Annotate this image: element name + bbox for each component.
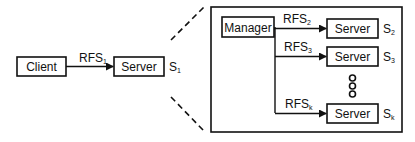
ellipsis-circles-icon (350, 75, 356, 97)
server-node-s2: Server S2 (327, 19, 395, 38)
client-node: Client (17, 57, 66, 76)
server-node-sk: Server Sk (327, 104, 395, 123)
manager-label: Manager (224, 21, 271, 35)
link-s2-label: RFS2 (283, 12, 311, 26)
diagram-canvas: Client RFS1 Server S1 Manager RFS2 RFS3 … (0, 0, 415, 142)
server-s3-id: S3 (383, 50, 395, 64)
link-manager-s2: RFS2 (274, 12, 326, 29)
link-sk-label: RFSk (285, 97, 313, 111)
server-sk-label: Server (335, 107, 370, 121)
link-client-server: RFS1 (66, 51, 113, 67)
server-s1-label: Server (121, 60, 156, 74)
server-s1-id: S1 (169, 60, 181, 74)
zoom-dashed-line-top (171, 7, 204, 40)
link-client-server-label: RFS1 (79, 51, 107, 65)
link-manager-s3: RFS3 (275, 40, 326, 57)
server-node-s3: Server S3 (327, 47, 395, 66)
server-node-s1: Server S1 (114, 57, 181, 76)
link-s3-label: RFS3 (284, 40, 312, 54)
link-manager-sk: RFSk (275, 97, 326, 114)
server-s3-label: Server (335, 50, 370, 64)
server-s2-label: Server (335, 22, 370, 36)
server-sk-id: Sk (383, 107, 395, 121)
zoom-dashed-line-bottom (171, 97, 204, 131)
client-label: Client (26, 60, 57, 74)
manager-node: Manager (222, 17, 274, 37)
server-s2-id: S2 (383, 22, 395, 36)
